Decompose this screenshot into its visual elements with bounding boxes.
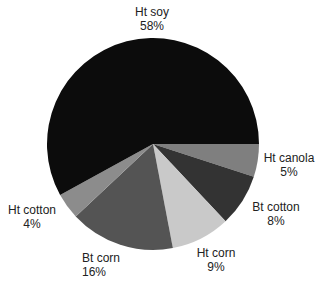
label-percent-ht-corn: 9% (207, 260, 225, 274)
label-percent-ht-canola: 5% (280, 165, 298, 179)
pie-slices (47, 38, 259, 250)
pie-chart: Ht canola5%Bt cotton8%Ht corn9%Bt corn16… (0, 0, 323, 285)
label-percent-ht-soy: 58% (140, 19, 164, 33)
label-name-ht-canola: Ht canola (264, 151, 315, 165)
label-name-ht-soy: Ht soy (135, 5, 169, 19)
label-percent-ht-cotton: 4% (23, 217, 41, 231)
label-name-bt-cotton: Bt cotton (252, 200, 299, 214)
label-percent-bt-cotton: 8% (267, 214, 285, 228)
label-name-bt-corn: Bt corn (82, 251, 120, 265)
label-name-ht-corn: Ht corn (197, 246, 236, 260)
label-percent-bt-corn: 16% (82, 265, 106, 279)
label-name-ht-cotton: Ht cotton (8, 203, 56, 217)
